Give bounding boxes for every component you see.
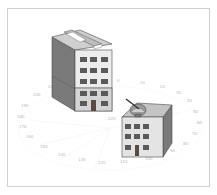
azimuth-label: 90 (170, 148, 176, 153)
azimuth-label: 10 (140, 80, 146, 85)
azimuth-label: 160 (26, 134, 34, 139)
azimuth-label: 170 (19, 124, 27, 129)
azimuth-label: 200 (33, 92, 41, 97)
tall-building-door (91, 100, 96, 111)
tall-building (52, 30, 112, 111)
azimuth-label: 220 (108, 116, 116, 121)
azimuth-label: 190 (21, 103, 29, 108)
azimuth-label: 70 (192, 131, 198, 136)
azimuth-label: 150 (40, 144, 48, 149)
azimuth-label: 30 (176, 90, 182, 95)
azimuth-label: 140 (58, 152, 66, 157)
azimuth-label: 50 (193, 109, 199, 114)
short-building-door (135, 145, 139, 156)
azimuth-label: 110 (120, 159, 128, 164)
azimuth-label: 120 (98, 160, 106, 165)
azimuth-label: 130 (78, 157, 86, 162)
building-illustration: 0 10 20 30 40 50 60 70 80 90 100 110 120… (0, 0, 217, 195)
azimuth-label: 40 (187, 98, 193, 103)
short-building (122, 99, 172, 157)
azimuth-label: 80 (183, 141, 189, 146)
azimuth-label: 20 (160, 84, 166, 89)
azimuth-label: 60 (197, 120, 203, 125)
azimuth-label: 180 (17, 114, 25, 119)
azimuth-label: 0 (117, 78, 120, 83)
